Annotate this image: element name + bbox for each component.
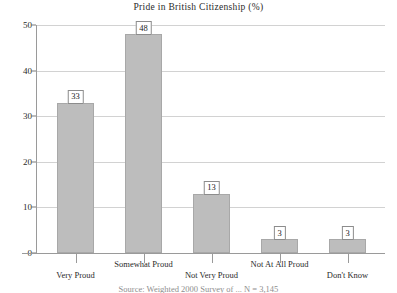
bar-value-label: 48: [135, 21, 152, 35]
x-category-label-very-proud: Very Proud: [56, 270, 94, 280]
x-tick-mark: [348, 253, 349, 263]
chart-title: Pride in British Citizenship (%): [0, 2, 397, 12]
bar: [261, 239, 298, 253]
bar-value-label: 3: [341, 226, 353, 240]
x-category-label-not-very-proud: Not Very Proud: [185, 270, 238, 280]
x-tick-mark: [76, 253, 77, 263]
x-category-label-somewhat-proud: Somewhat Proud: [114, 259, 172, 269]
bar-value-label: 3: [273, 226, 285, 240]
y-axis-line: [36, 25, 37, 254]
y-axis: 50 40 30 20 10 0: [0, 0, 32, 293]
plot-area: 33 48 13 3 3: [36, 25, 385, 253]
bar-value-label: 33: [67, 90, 84, 104]
x-category-label-not-at-all-proud: Not At All Proud: [251, 259, 309, 269]
bar: [329, 239, 366, 253]
y-tick-label: 10: [6, 202, 32, 212]
y-tick-label: 30: [6, 111, 32, 121]
bar: [125, 34, 162, 253]
y-tick-label: 40: [6, 66, 32, 76]
gridline: [36, 25, 385, 26]
source-note: Source: Weighted 2000 Survey of ... N = …: [0, 284, 397, 293]
y-tick-label: 20: [6, 157, 32, 167]
bar-value-label: 13: [203, 181, 220, 195]
chart-page: Pride in British Citizenship (%) 50 40 3…: [0, 0, 397, 293]
bar: [57, 103, 94, 254]
y-tick-label: 50: [6, 20, 32, 30]
bar: [193, 194, 230, 253]
x-tick-mark: [212, 253, 213, 263]
x-category-label-dont-know: Don't Know: [327, 270, 368, 280]
gridline: [36, 71, 385, 72]
